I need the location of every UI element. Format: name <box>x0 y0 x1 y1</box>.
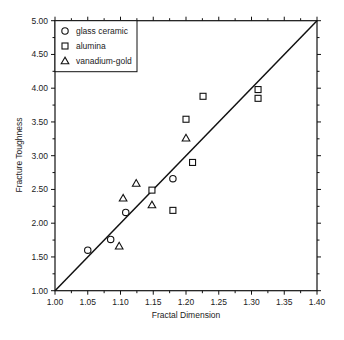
x-tick-label: 1.15 <box>145 297 162 307</box>
circle-point <box>170 175 176 181</box>
square-icon <box>62 43 68 49</box>
y-tick-label: 5.00 <box>31 16 48 26</box>
x-tick-label: 1.10 <box>112 297 129 307</box>
triangle-point <box>115 242 123 249</box>
triangle-point <box>132 180 140 187</box>
x-tick-label: 1.40 <box>309 297 326 307</box>
legend-label-vanadium-gold: vanadium-gold <box>76 56 132 66</box>
x-tick-label: 1.05 <box>79 297 96 307</box>
y-tick-labels: 1.001.502.002.503.003.504.004.505.00 <box>31 16 48 296</box>
y-tick-label: 3.50 <box>31 117 48 127</box>
x-tick-label: 1.35 <box>276 297 293 307</box>
y-tick-label: 4.00 <box>31 83 48 93</box>
x-tick-labels: 1.001.051.101.151.201.251.301.351.40 <box>47 297 326 307</box>
circle-point <box>85 247 91 253</box>
x-axis-title: Fractal Dimension <box>152 310 221 320</box>
triangle-point <box>182 134 190 141</box>
x-tick-label: 1.25 <box>210 297 227 307</box>
x-tick-label: 1.20 <box>178 297 195 307</box>
legend-label-alumina: alumina <box>76 41 106 51</box>
triangle-point <box>119 194 127 201</box>
y-tick-label: 3.00 <box>31 151 48 161</box>
circle-icon <box>62 28 68 34</box>
triangle-point <box>148 201 156 208</box>
y-axis-title: Fracture Toughness <box>14 118 24 193</box>
scatter-chart: 1.001.051.101.151.201.251.301.351.40 1.0… <box>0 0 344 340</box>
y-tick-label: 2.00 <box>31 218 48 228</box>
square-point <box>149 187 155 193</box>
y-tick-label: 4.50 <box>31 49 48 59</box>
legend-label-glass-ceramic: glass ceramic <box>76 26 129 36</box>
square-point <box>190 159 196 165</box>
y-tick-label: 1.50 <box>31 252 48 262</box>
x-tick-label: 1.30 <box>243 297 260 307</box>
square-point <box>200 93 206 99</box>
y-tick-label: 2.50 <box>31 184 48 194</box>
legend: glass ceramic alumina vanadium-gold <box>55 21 137 72</box>
x-tick-label: 1.00 <box>47 297 64 307</box>
square-point <box>170 207 176 213</box>
square-point <box>183 116 189 122</box>
circle-point <box>107 236 113 242</box>
circle-point <box>123 209 129 215</box>
y-tick-label: 1.00 <box>31 286 48 296</box>
square-point <box>255 95 261 101</box>
square-point <box>255 87 261 93</box>
